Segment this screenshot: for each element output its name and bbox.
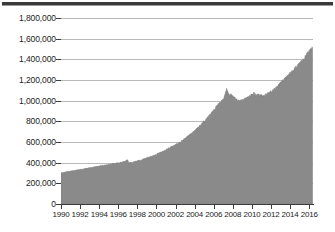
y-axis-tick-label: 1,400,000 [0, 55, 56, 63]
x-axis-tick-mark [99, 205, 100, 209]
x-axis-tick-mark [156, 205, 157, 209]
x-axis-tick-mark [61, 205, 62, 209]
plot-area [61, 18, 313, 204]
x-axis-tick-mark [309, 205, 310, 209]
chart-container: 0200,000400,000600,000800,0001,000,0001,… [0, 0, 335, 232]
area-series [61, 18, 313, 204]
y-axis-tick-label: 200,000 [0, 179, 56, 187]
x-axis-tick-mark [233, 205, 234, 209]
area-fill [61, 47, 313, 204]
y-axis-tick-label: 400,000 [0, 159, 56, 167]
y-axis-tick-label: 600,000 [0, 138, 56, 146]
x-axis-tick-mark [176, 205, 177, 209]
x-axis-tick-mark [214, 205, 215, 209]
y-axis-tick-label: 1,200,000 [0, 76, 56, 84]
chart-title [4, 0, 324, 1]
y-axis-tick-label: 1,600,000 [0, 35, 56, 43]
x-axis-tick-mark [290, 205, 291, 209]
x-axis-tick-mark [137, 205, 138, 209]
x-axis-tick-mark [118, 205, 119, 209]
y-axis-tick-label: 800,000 [0, 117, 56, 125]
x-axis-tick-mark [80, 205, 81, 209]
y-axis-tick-label: 1,800,000 [0, 14, 56, 22]
x-axis-tick-label: 2016 [294, 210, 324, 219]
x-axis-tick-mark [195, 205, 196, 209]
y-axis-tick-label: 1,000,000 [0, 97, 56, 105]
x-axis-tick-mark [252, 205, 253, 209]
x-axis-tick-mark [271, 205, 272, 209]
y-axis-tick-label: 0 [0, 200, 56, 208]
title-rule-decoration-secondary [2, 5, 333, 6]
